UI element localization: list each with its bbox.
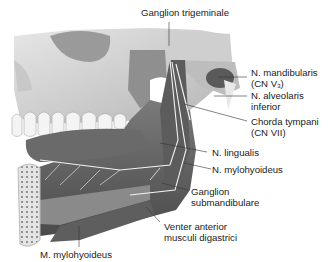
label-m-mylohyoideus: M. mylohyoideus [40,249,112,260]
label-n-alveolaris-inferior: N. alveolaris inferior [251,90,304,112]
mandible-section [18,164,40,246]
label-n-alveolaris-line2: inferior [251,101,304,112]
label-n-alveolaris-line1: N. alveolaris [251,90,304,101]
label-n-lingualis: N. lingualis [212,147,259,158]
label-ganglion-sub-line2: submandibulare [191,197,259,208]
label-venter-line1: Venter anterior [164,221,237,232]
label-venter-anterior: Venter anterior musculi digastrici [164,221,237,243]
label-ganglion-submandibulare: Ganglion submandibulare [191,186,259,208]
label-n-mylohyoideus: N. mylohyoideus [212,164,283,175]
label-chorda-line2: (CN VII) [251,127,319,138]
label-n-mandibularis: N. mandibularis (CN V3) [251,67,318,92]
label-ganglion-sub-line1: Ganglion [191,186,259,197]
label-venter-line2: musculi digastrici [164,232,237,243]
label-chorda-tympani: Chorda tympani (CN VII) [251,116,319,138]
label-ganglion-trigeminale: Ganglion trigeminale [141,7,229,18]
label-chorda-line1: Chorda tympani [251,116,319,127]
skull [14,28,240,124]
label-n-mandibularis-line1: N. mandibularis [251,67,318,78]
